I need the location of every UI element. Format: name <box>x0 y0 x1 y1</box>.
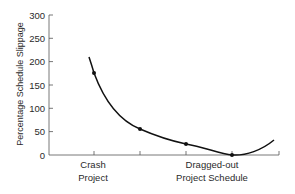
marker-crash <box>92 71 96 75</box>
x-label-project: Project <box>78 172 108 183</box>
svg-text:150: 150 <box>29 80 45 91</box>
marker-2 <box>138 127 142 131</box>
y-tick-labels: 300 250 200 150 100 50 0 <box>29 10 45 161</box>
svg-text:100: 100 <box>29 103 45 114</box>
svg-text:250: 250 <box>29 33 45 44</box>
marker-dragged-out <box>184 142 188 146</box>
data-markers <box>92 71 234 157</box>
x-label-project-schedule: Project Schedule <box>176 172 248 183</box>
x-label-dragged-out: Dragged-out <box>186 159 239 170</box>
y-axis-title: Percentage Schedule Slippage <box>15 22 25 146</box>
y-ticks <box>49 15 53 132</box>
svg-text:0: 0 <box>40 150 45 161</box>
x-category-labels: Crash Project Dragged-out Project Schedu… <box>78 159 248 183</box>
marker-4 <box>230 153 234 157</box>
x-label-crash: Crash <box>80 159 105 170</box>
slippage-curve <box>89 57 274 155</box>
svg-text:50: 50 <box>34 126 45 137</box>
svg-text:300: 300 <box>29 10 45 21</box>
svg-text:200: 200 <box>29 56 45 67</box>
schedule-slippage-chart: Percentage Schedule Slippage 300 250 200… <box>0 0 295 194</box>
